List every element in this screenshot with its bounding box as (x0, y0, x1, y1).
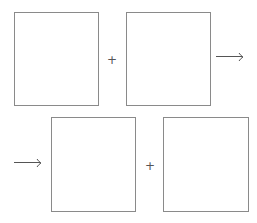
right-arrow-icon (14, 157, 42, 169)
plus-operator-2: + (144, 160, 156, 172)
plus-operator-1: + (106, 54, 118, 66)
box-2 (126, 12, 211, 106)
right-arrow-icon (216, 51, 244, 63)
box-3 (51, 117, 136, 212)
box-4 (163, 117, 249, 212)
box-1 (14, 12, 99, 106)
